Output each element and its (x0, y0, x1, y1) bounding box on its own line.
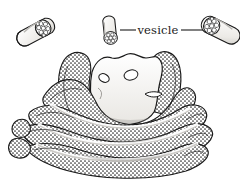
cisterna-left-terminus-1 (9, 138, 31, 158)
golgi-apparatus-illustration: vesicle (0, 0, 240, 179)
cisterna-left-terminus-2 (12, 119, 30, 137)
vesicle-label: vesicle (136, 23, 178, 37)
figure-container: vesicle (0, 0, 240, 179)
